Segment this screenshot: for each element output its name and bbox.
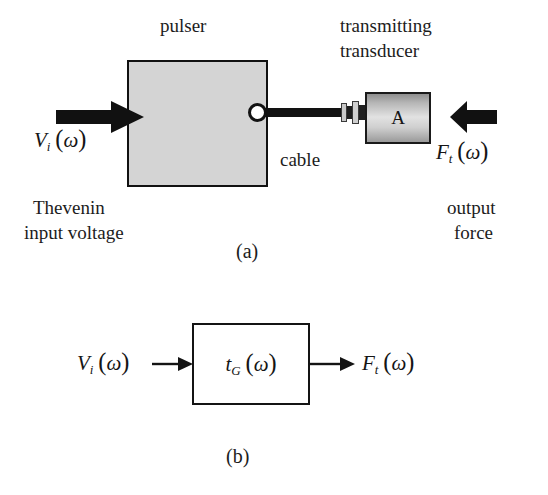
transducer-letter: A: [367, 94, 429, 142]
pulser-title: pulser: [160, 14, 206, 37]
panel-a-caption: (a): [236, 240, 258, 263]
transducer-body: A: [365, 92, 431, 144]
connector-band-3: [352, 101, 359, 124]
block-input-symbol: Vi (ω): [77, 348, 129, 378]
output-force-symbol: Ft (ω): [436, 137, 488, 167]
output-arrow: [449, 100, 499, 134]
output-force-arg: ω: [465, 140, 480, 164]
transfer-function-label-wrap: tG (ω): [194, 325, 308, 403]
output-description-line1: output: [447, 196, 496, 219]
input-description-line1: Thevenin: [33, 196, 105, 219]
output-force-var: F: [436, 140, 449, 164]
block-input-arrow: [152, 356, 194, 372]
block-output-arrow: [310, 356, 356, 372]
transfer-function-arg: ω: [254, 352, 269, 376]
transfer-function-symbol: tG (ω): [225, 349, 276, 379]
input-voltage-var: V: [34, 128, 47, 152]
transfer-function-sub: G: [231, 363, 240, 378]
cable-line: [263, 108, 343, 117]
transfer-function-block: tG (ω): [192, 323, 310, 405]
input-description-line2: input voltage: [24, 221, 124, 244]
panel-b-caption: (b): [226, 445, 249, 468]
transducer-title-line1: transmitting: [340, 14, 432, 37]
output-description-line2: force: [454, 221, 493, 244]
cable-port-icon: [248, 103, 267, 122]
block-output-arg: ω: [391, 351, 406, 375]
pulser-box: [127, 60, 268, 187]
figure-canvas: pulser transmitting transducer Vi (ω) Th…: [0, 0, 548, 495]
transducer-title-line2: transducer: [340, 39, 419, 62]
cable-label: cable: [280, 148, 320, 171]
block-input-arg: ω: [106, 351, 121, 375]
block-output-var: F: [362, 351, 375, 375]
block-input-var: V: [77, 351, 90, 375]
input-voltage-symbol: Vi (ω): [34, 125, 86, 155]
block-output-symbol: Ft (ω): [362, 348, 414, 378]
input-voltage-arg: ω: [63, 128, 78, 152]
